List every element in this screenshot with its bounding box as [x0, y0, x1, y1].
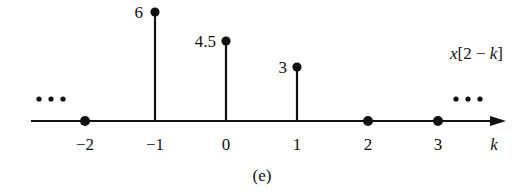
tick-label: −1	[146, 135, 164, 154]
sample-k-1	[292, 62, 301, 121]
tick-label: 3	[434, 135, 443, 154]
sample-k-2	[363, 116, 373, 126]
axis-label-k: k	[490, 135, 498, 154]
stem-plot: 6 4.5 3 x[2 − k] −2 −1 0 1 2 3 k (e)	[0, 0, 523, 194]
sample-k-3	[433, 116, 443, 126]
sample-k-minus2	[80, 116, 90, 126]
tick-label: −2	[76, 135, 94, 154]
tick-label: 1	[293, 135, 302, 154]
value-label-k-1: 3	[279, 58, 288, 77]
value-label-k-minus1: 6	[135, 3, 144, 22]
left-ellipsis-icon	[36, 96, 65, 101]
figure-caption: (e)	[253, 166, 272, 185]
right-ellipsis-icon	[453, 96, 482, 101]
sample-k-minus1	[150, 7, 159, 121]
axis-arrow-icon	[490, 116, 506, 126]
tick-label: 2	[364, 135, 373, 154]
sample-k-0	[221, 36, 230, 121]
series-label: x[2 − k]	[449, 44, 503, 63]
tick-label: 0	[222, 135, 231, 154]
value-label-k-0: 4.5	[195, 32, 216, 51]
